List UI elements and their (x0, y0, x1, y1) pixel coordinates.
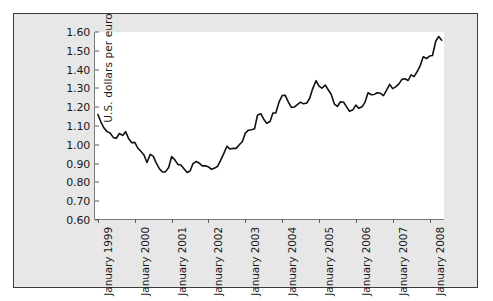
y-axis-tick-label: 1.30 (66, 82, 95, 95)
x-axis-tick-mark (282, 219, 283, 223)
y-axis-tick-mark (95, 201, 99, 202)
x-axis-tick-label: January 2003 (249, 227, 261, 296)
x-axis-tick-label: January 2006 (360, 227, 372, 296)
x-axis-tick-mark (245, 219, 246, 223)
x-axis-tick-label: January 2004 (286, 227, 298, 296)
y-axis-tick-mark (95, 182, 99, 183)
plot-area: U.S. dollars per euro 1.601.501.401.301.… (94, 32, 444, 220)
y-axis-tick-mark (95, 88, 99, 89)
x-axis-tick-mark (98, 219, 99, 223)
y-axis-tick-label: 0.80 (66, 176, 95, 189)
x-axis-tick-mark (172, 219, 173, 223)
chart-figure: U.S. dollars per euro 1.601.501.401.301.… (0, 0, 493, 301)
x-axis-tick-label: January 2002 (212, 227, 224, 296)
x-axis-tick-label: January 2007 (397, 227, 409, 296)
y-axis-tick-label: 1.50 (66, 44, 95, 57)
x-axis-tick-label: January 2005 (323, 227, 335, 296)
y-axis-tick-label: 0.90 (66, 157, 95, 170)
y-axis-title: U.S. dollars per euro (102, 3, 114, 133)
y-axis-tick-label: 0.70 (66, 195, 95, 208)
series-line-usd-per-euro (98, 37, 442, 173)
y-axis-tick-label: 1.10 (66, 120, 95, 133)
y-axis-tick-label: 1.00 (66, 138, 95, 151)
line-series-svg (95, 32, 445, 220)
y-axis-tick-mark (95, 163, 99, 164)
y-axis-tick-mark (95, 32, 99, 33)
y-axis-tick-mark (95, 144, 99, 145)
y-axis-tick-label: 1.20 (66, 101, 95, 114)
x-axis-tick-label: January 1999 (102, 227, 114, 296)
y-axis-tick-mark (95, 69, 99, 70)
x-axis-tick-mark (319, 219, 320, 223)
y-axis-tick-mark (95, 107, 99, 108)
x-axis-tick-mark (393, 219, 394, 223)
y-axis-tick-label: 0.60 (66, 214, 95, 227)
x-axis-tick-mark (135, 219, 136, 223)
y-axis-tick-mark (95, 126, 99, 127)
y-axis-tick-label: 1.40 (66, 63, 95, 76)
figure-frame: U.S. dollars per euro 1.601.501.401.301.… (13, 13, 478, 288)
x-axis-tick-label: January 2001 (176, 227, 188, 296)
y-axis-tick-mark (95, 50, 99, 51)
x-axis-tick-mark (356, 219, 357, 223)
x-axis-tick-label: January 2000 (139, 227, 151, 296)
x-axis-tick-label: January 2008 (434, 227, 446, 296)
x-axis-tick-mark (430, 219, 431, 223)
x-axis-tick-mark (208, 219, 209, 223)
y-axis-tick-label: 1.60 (66, 26, 95, 39)
